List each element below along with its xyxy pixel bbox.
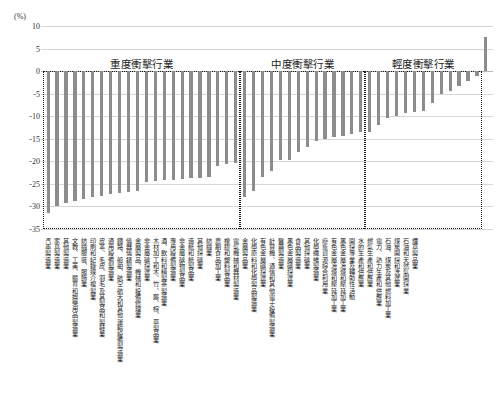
bar <box>413 71 416 112</box>
bar <box>386 71 389 118</box>
category-label: 專用設備製造業 <box>170 238 177 281</box>
category-label: 煤炭開採和洗選業 <box>393 238 400 288</box>
bar <box>243 71 246 197</box>
category-label: 化學原料和化學製品製造業 <box>250 238 257 312</box>
bar <box>47 71 50 213</box>
bar <box>163 71 166 180</box>
bar <box>449 71 452 90</box>
category-label: 開採專業及輔助性活動 <box>348 238 355 300</box>
bar <box>154 71 157 181</box>
gridline <box>41 206 493 207</box>
category-label: 燃氣生產和供應業 <box>366 238 373 288</box>
bar <box>234 71 237 163</box>
bar <box>315 71 318 141</box>
category-label: 非金屬礦採選業 <box>143 238 150 281</box>
category-label: 其他採礦業 <box>303 238 310 269</box>
gridline <box>41 26 493 27</box>
category-label: 家具製造業 <box>53 238 60 269</box>
bar <box>73 71 76 200</box>
category-label: 煙草製品業 <box>411 238 418 269</box>
category-label: 酒、飲料和精製茶製造業 <box>161 238 168 306</box>
bar <box>252 71 255 191</box>
bar <box>341 71 344 136</box>
category-label: 非金屬礦物製品業 <box>178 238 185 288</box>
category-label: 鐵路、船舶、航空航天和其他運輸設備製造業 <box>116 238 123 362</box>
y-axis-tick-label: -10 <box>10 112 40 121</box>
group-box-2 <box>239 71 366 229</box>
bar <box>279 71 282 160</box>
bar <box>91 71 94 197</box>
bar <box>440 71 443 94</box>
group-label: 重度衝擊行業 <box>43 56 242 71</box>
category-label: 廢棄資源綜合利用業 <box>321 238 328 294</box>
bar <box>136 71 139 191</box>
bar <box>118 71 121 193</box>
category-label: 農副食品加工業 <box>214 238 221 281</box>
y-axis-tick-label: -35 <box>10 225 40 234</box>
bar <box>350 71 353 134</box>
bar <box>457 71 460 85</box>
bar <box>207 71 210 177</box>
category-label: 金屬製品、機械和設備修理業 <box>134 238 141 319</box>
category-label: 水的生產和供應業 <box>357 238 364 288</box>
y-axis-tick-label: 5 <box>10 44 40 53</box>
gridline <box>41 229 493 230</box>
category-labels: 汽車製造業家具製造業其他製造業文教、工美、體育和娛樂用品製造業紡織服裝、服飾業印… <box>41 238 493 416</box>
bar <box>332 71 335 136</box>
group-label: 輕度衝擊行業 <box>364 56 482 71</box>
category-label: 印刷和記錄媒介複製業 <box>89 238 96 300</box>
bar <box>368 71 371 131</box>
category-label: 有色金屬礦採選業 <box>259 238 266 288</box>
category-label: 造紙和紙製品業 <box>187 238 194 281</box>
category-label: 化學纖維製造業 <box>312 238 319 281</box>
y-axis-tick-label: -5 <box>10 89 40 98</box>
category-label: 木材加工和木、竹、藤、棕、草製品業 <box>152 238 159 343</box>
bar <box>306 71 309 147</box>
category-label: 紡織業 <box>205 238 212 257</box>
category-label: 其他製造業 <box>62 238 69 269</box>
y-axis-tick-label: 0 <box>10 67 40 76</box>
bar <box>377 71 380 125</box>
bar <box>466 71 469 80</box>
category-label: 文教、工美、體育和娛樂用品製造業 <box>71 238 78 337</box>
category-label: 計算機、通信和其他電子設備製造業 <box>268 238 275 337</box>
bar <box>181 71 184 179</box>
bar <box>225 71 228 164</box>
category-label: 有色金屬冶煉和壓延加工業 <box>330 238 337 312</box>
category-label: 紡織服裝、服飾業 <box>80 238 87 288</box>
bar <box>359 71 362 132</box>
y-axis-tick-label: -30 <box>10 202 40 211</box>
chart-root: (%) 1050-5-10-15-20-25-30-35 重度衝擊行業中度衝擊行… <box>0 0 496 418</box>
bar <box>189 71 192 178</box>
category-label: 電氣機械和器材製造業 <box>232 238 239 300</box>
y-axis: 1050-5-10-15-20-25-30-35 <box>8 0 40 240</box>
category-label: 儀器儀錶製造業 <box>125 238 132 281</box>
bar <box>55 71 58 206</box>
category-label: 通用設備製造業 <box>107 238 114 281</box>
bar <box>109 71 112 194</box>
bar <box>431 71 434 103</box>
category-label: 金屬製品業 <box>241 238 248 269</box>
category-label: 皮革、毛皮、羽毛及其製品和製鞋業 <box>98 238 105 337</box>
gridline <box>41 49 493 50</box>
bar <box>288 71 291 159</box>
category-label: 食品製造業 <box>295 238 302 269</box>
bar <box>270 71 273 171</box>
group-label: 中度衝擊行業 <box>239 56 366 71</box>
bar <box>395 71 398 116</box>
y-axis-tick-label: 10 <box>10 22 40 31</box>
bar <box>145 71 148 182</box>
bar <box>422 71 425 111</box>
bar <box>297 71 300 152</box>
category-label: 電力、熱力生產和供應業 <box>375 238 382 306</box>
bar <box>323 71 326 139</box>
plot-area: 重度衝擊行業中度衝擊行業輕度衝擊行業 <box>41 26 493 229</box>
bar <box>64 71 67 203</box>
category-label: 其他採礦業 <box>196 238 203 269</box>
category-label: 黑色金屬礦採選業 <box>286 238 293 288</box>
bar <box>172 71 175 180</box>
bar <box>216 71 219 166</box>
y-axis-tick-label: -25 <box>10 179 40 188</box>
bar <box>484 37 487 71</box>
category-label: 醫藥製造業 <box>277 238 284 269</box>
